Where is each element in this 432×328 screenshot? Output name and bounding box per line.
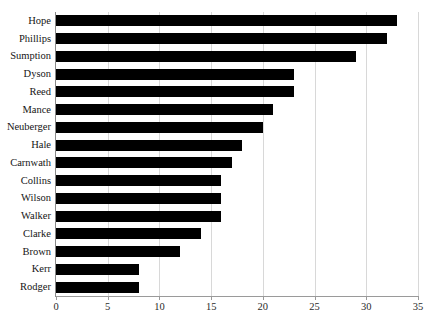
bar (56, 264, 139, 275)
y-axis-category-label: Hale (0, 139, 51, 150)
bar (56, 86, 294, 97)
x-tick-label: 10 (154, 301, 165, 313)
bar (56, 51, 356, 62)
bar (56, 104, 273, 115)
x-tick-mark (159, 296, 160, 300)
x-tick-mark (418, 296, 419, 300)
y-axis-category-label: Kerr (0, 263, 51, 274)
x-tick-label: 0 (53, 301, 58, 313)
y-axis-category-label: Collins (0, 175, 51, 186)
x-tick-mark (263, 296, 264, 300)
bar (56, 157, 232, 168)
y-axis-category-label: Phillips (0, 33, 51, 44)
y-axis-category-label: Mance (0, 104, 51, 115)
x-tick-label: 15 (206, 301, 217, 313)
gridline (418, 12, 419, 296)
x-axis-line (56, 296, 418, 297)
bar-chart: 05101520253035 HopePhillipsSumptionDyson… (0, 0, 432, 328)
x-tick-mark (108, 296, 109, 300)
gridline (366, 12, 367, 296)
x-tick-label: 20 (258, 301, 269, 313)
bar (56, 228, 201, 239)
y-axis-category-label: Rodger (0, 281, 51, 292)
bar (56, 140, 242, 151)
x-tick-mark (56, 296, 57, 300)
x-tick-label: 5 (105, 301, 110, 313)
y-axis-line (55, 12, 56, 297)
y-axis-category-label: Hope (0, 15, 51, 26)
bar (56, 175, 221, 186)
x-tick-mark (315, 296, 316, 300)
bar (56, 122, 263, 133)
y-axis-category-label: Brown (0, 246, 51, 257)
x-tick-mark (366, 296, 367, 300)
y-axis-category-label: Sumption (0, 50, 51, 61)
bar (56, 193, 221, 204)
bar (56, 33, 387, 44)
y-axis-category-label: Clarke (0, 228, 51, 239)
plot-area (56, 12, 418, 296)
bar (56, 246, 180, 257)
bar (56, 282, 139, 293)
x-tick-mark (211, 296, 212, 300)
bar (56, 69, 294, 80)
y-axis-category-label: Neuberger (0, 121, 51, 132)
y-axis-category-label: Carnwath (0, 157, 51, 168)
x-tick-label: 35 (413, 301, 424, 313)
y-axis-category-label: Dyson (0, 68, 51, 79)
y-axis-category-label: Walker (0, 210, 51, 221)
bar (56, 15, 397, 26)
x-tick-label: 25 (309, 301, 320, 313)
y-axis-category-label: Reed (0, 86, 51, 97)
y-axis-category-label: Wilson (0, 192, 51, 203)
bar (56, 211, 221, 222)
x-tick-label: 30 (361, 301, 372, 313)
